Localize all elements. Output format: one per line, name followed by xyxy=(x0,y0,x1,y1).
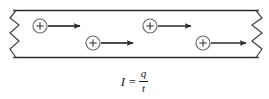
current-formula-row: I = q t xyxy=(0,64,269,99)
current-diagram-figure: I = q t xyxy=(0,0,269,99)
charge-carrier-3 xyxy=(143,19,191,33)
conductor-diagram xyxy=(0,0,269,66)
formula-variable-I: I xyxy=(121,75,125,88)
current-formula: I = q t xyxy=(121,68,149,94)
formula-fraction: q t xyxy=(139,68,149,94)
charge-carrier-2 xyxy=(86,36,133,50)
conductor-outline xyxy=(10,11,262,58)
formula-numerator-q: q xyxy=(139,68,149,80)
formula-equals-sign: = xyxy=(129,76,136,88)
left-break-zigzag-icon xyxy=(10,11,19,58)
charge-carrier-1 xyxy=(33,19,80,33)
right-break-zigzag-icon xyxy=(252,11,262,58)
charge-carrier-4 xyxy=(196,36,246,50)
formula-denominator-t: t xyxy=(140,83,147,95)
